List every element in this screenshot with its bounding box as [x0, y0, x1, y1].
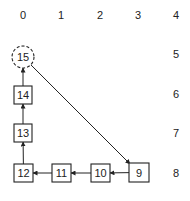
node-label: 12	[17, 167, 29, 179]
column-labels: 01234	[20, 9, 179, 21]
node-15: 15	[12, 46, 34, 68]
row-label: 5	[173, 48, 179, 60]
edges	[23, 65, 130, 173]
grid-path-diagram: 01234 5678 1514131211109	[0, 0, 190, 201]
column-label: 0	[20, 9, 26, 21]
node-label: 10	[94, 167, 106, 179]
node-10: 10	[91, 164, 110, 182]
row-label: 8	[173, 167, 179, 179]
node-11: 11	[52, 164, 71, 182]
row-labels: 5678	[173, 48, 179, 179]
node-13: 13	[14, 124, 32, 142]
row-label: 6	[173, 88, 179, 100]
node-label: 9	[136, 167, 142, 179]
column-label: 4	[173, 9, 179, 21]
node-12: 12	[14, 164, 33, 182]
column-label: 1	[58, 9, 64, 21]
column-label: 3	[135, 9, 141, 21]
row-label: 7	[173, 127, 179, 139]
node-label: 13	[17, 127, 29, 139]
node-9: 9	[129, 163, 149, 182]
edge-15-to-9	[31, 65, 130, 164]
column-label: 2	[97, 9, 103, 21]
node-label: 11	[56, 167, 67, 179]
node-label: 14	[17, 89, 29, 101]
diagram-canvas: 01234 5678 1514131211109	[0, 0, 190, 201]
node-14: 14	[14, 86, 32, 104]
node-label: 15	[17, 51, 29, 63]
